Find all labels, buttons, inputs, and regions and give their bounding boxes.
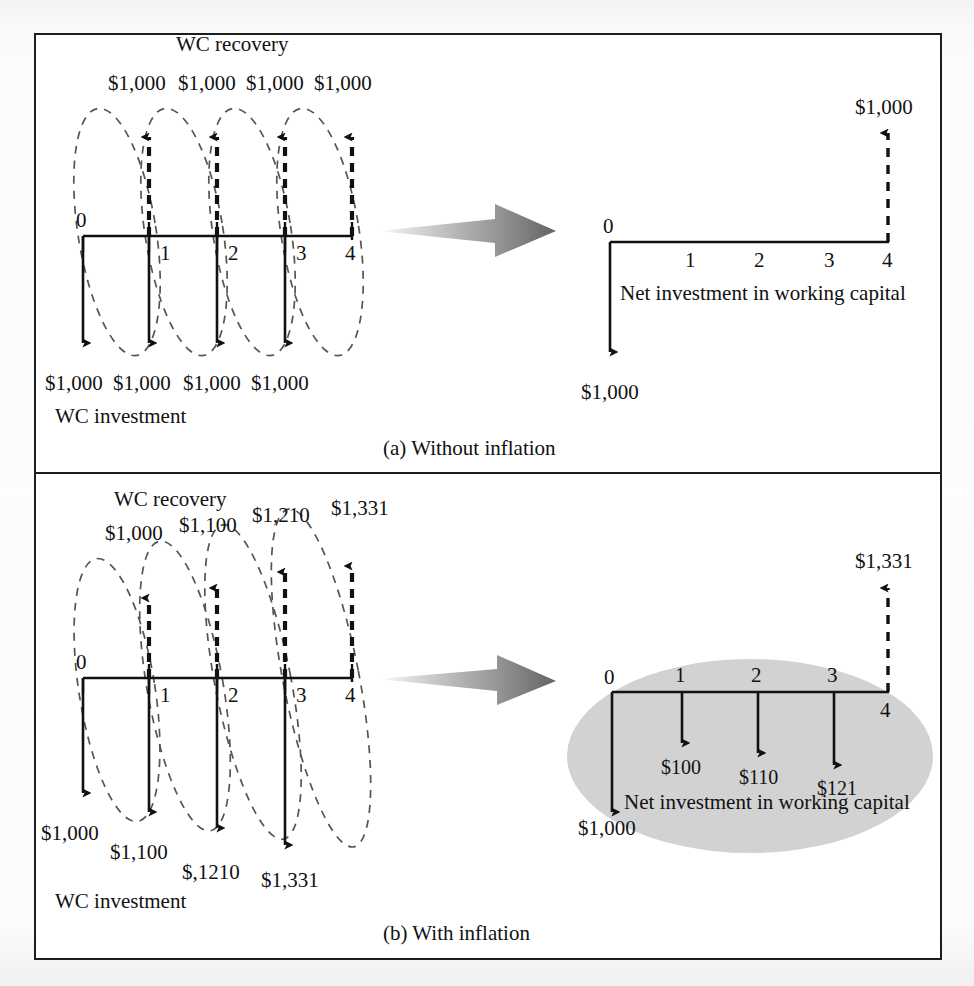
panel-b-net-outflow-label: $1,000 [578, 818, 636, 839]
panel-a-recovery-heading: WC recovery [176, 34, 289, 55]
panel-a-left-tick-0: 0 [76, 210, 87, 231]
panel-b-right-tick-3: 3 [827, 665, 838, 686]
panel-b-left-tick-2: 2 [228, 685, 239, 706]
panel-a-outflow-label-3: $1,000 [183, 373, 241, 394]
panel-a-right-tick-0: 0 [603, 216, 614, 237]
panel-a-right-tick-3: 3 [824, 250, 835, 271]
panel-a-inflow-label-2: $1,000 [178, 73, 236, 94]
panel-b-interim-outflow-label-1: $100 [661, 757, 701, 777]
panel-a-outflow-label-4: $1,000 [251, 373, 309, 394]
panel-b-caption: (b) With inflation [383, 923, 530, 944]
panel-a-left-tick-1: 1 [160, 243, 171, 264]
panel-b-investment-heading: WC investment [55, 891, 186, 912]
panel-b-left-tick-3: 3 [296, 685, 307, 706]
panel-b-net-inflow-label: $1,331 [855, 551, 913, 572]
panel-b-left-tick-1: 1 [160, 685, 171, 706]
panel-a-left-tick-4: 4 [345, 243, 356, 264]
panel-a-right-tick-4: 4 [882, 250, 893, 271]
panel-divider [34, 472, 942, 474]
panel-b-outflow-label-2: $1,100 [110, 842, 168, 863]
panel-a-investment-heading: WC investment [55, 406, 186, 427]
panel-a-axis-caption: Net investment in working capital [620, 283, 906, 304]
panel-a-outflow-label-2: $1,000 [113, 373, 171, 394]
panel-b-interim-outflow-label-2: $110 [739, 767, 778, 787]
panel-b-right-tick-2: 2 [751, 665, 762, 686]
panel-a-inflow-label-1: $1,000 [108, 73, 166, 94]
panel-b-right-tick-4: 4 [880, 700, 891, 721]
panel-b-outflow-label-1: $1,000 [41, 823, 99, 844]
panel-b-right-tick-0: 0 [604, 667, 615, 688]
panel-b-outflow-label-3: $,1210 [182, 862, 240, 883]
panel-a-inflow-label-3: $1,000 [246, 73, 304, 94]
panel-a-left-tick-2: 2 [228, 243, 239, 264]
panel-b-left-tick-0: 0 [76, 652, 87, 673]
figure-root: WC recovery $1,000 $1,000 $1,000 $1,000 … [0, 0, 974, 986]
panel-a-inflow-label-4: $1,000 [314, 73, 372, 94]
panel-b-left-tick-4: 4 [345, 685, 356, 706]
panel-b-axis-caption: Net investment in working capital [624, 792, 910, 813]
panel-b-inflow-label-1: $1,000 [105, 523, 163, 544]
panel-a-left-tick-3: 3 [296, 243, 307, 264]
panel-a-right-tick-1: 1 [685, 250, 696, 271]
panel-b-inflow-label-4: $1,331 [331, 498, 389, 519]
panel-a-net-inflow-label: $1,000 [855, 97, 913, 118]
panel-a-caption: (a) Without inflation [383, 438, 556, 459]
panel-b-inflow-label-3: $1,210 [252, 505, 310, 526]
panel-a-net-outflow-label: $1,000 [581, 382, 639, 403]
panel-a-right-tick-2: 2 [754, 250, 765, 271]
panel-b-inflow-label-2: $1,100 [179, 515, 237, 536]
panel-b-recovery-heading: WC recovery [114, 489, 227, 510]
panel-a-outflow-label-1: $1,000 [45, 373, 103, 394]
panel-b-outflow-label-4: $1,331 [261, 870, 319, 891]
panel-b-right-tick-1: 1 [675, 665, 686, 686]
